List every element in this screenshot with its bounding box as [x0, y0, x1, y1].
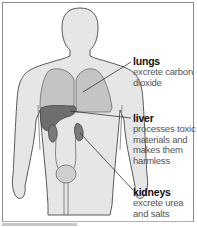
label-kidneys: kidneys excrete urea and salts [133, 186, 183, 219]
label-lungs: lungs excrete carbon dioxide [133, 55, 193, 88]
bladder [56, 165, 76, 183]
label-liver-line-1: processes toxic [133, 124, 195, 135]
label-lungs-line-2: dioxide [133, 78, 193, 89]
label-lungs-line-1: excrete carbon [133, 67, 193, 78]
label-kidneys-line-2: and salts [133, 209, 183, 220]
label-liver-line-4: harmless [133, 156, 195, 167]
label-liver-line-3: makes them [133, 145, 195, 156]
label-kidneys-line-1: excrete urea [133, 198, 183, 209]
label-liver: liver processes toxic materials and make… [133, 112, 195, 166]
